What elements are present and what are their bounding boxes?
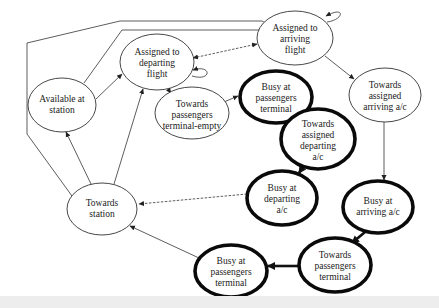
edge-busy-pt-bottom-to-towards-station (130, 226, 199, 258)
node-assigned-to-departing-flight: Assigned to departing flight (120, 34, 194, 90)
node-label: a/c (312, 152, 323, 162)
node-label: passengers (210, 267, 251, 277)
node-label: assigned (369, 91, 402, 101)
node-label: Towards (302, 119, 335, 129)
node-label: terminal (260, 104, 292, 114)
node-label: Assigned to (272, 23, 317, 33)
edge-busy-dep-ac-to-towards-station (139, 194, 247, 204)
page-bottom-band (0, 296, 439, 308)
node-busy-at-passengers-terminal-bottom: Busy at passengers terminal (195, 245, 267, 297)
node-label: departing (139, 58, 175, 68)
node-label: arriving a/c (363, 102, 407, 112)
edge-towards-station-to-available (66, 132, 91, 184)
edge-self-loop-assigned-arriving (326, 12, 340, 22)
node-busy-at-arriving-ac: Busy at arriving a/c (343, 181, 413, 233)
node-label: terminal (319, 272, 351, 282)
node-label: departing (264, 194, 300, 204)
node-label: departing (300, 141, 336, 151)
node-towards-station: Towards station (67, 183, 137, 235)
node-label: assigned (302, 130, 335, 140)
state-diagram: Available at station Assigned to departi… (0, 0, 439, 308)
node-label: terminal (215, 278, 247, 288)
node-label: a/c (276, 205, 287, 215)
edge-self-loop-assigned-departing (192, 69, 207, 77)
node-label: passengers (255, 93, 296, 103)
node-label: station (49, 105, 75, 115)
node-label: arriving a/c (356, 207, 400, 217)
edge-towards-station-to-assigned-departing (114, 89, 143, 184)
node-label: Towards (319, 250, 352, 260)
node-label: Available at (39, 94, 85, 104)
node-assigned-to-arriving-flight: Assigned to arriving flight (257, 11, 333, 65)
edge-assigned-arriving-to-towards-arr-ac (325, 56, 354, 79)
node-towards-assigned-arriving-ac: Towards assigned arriving a/c (349, 68, 421, 122)
node-label: flight (147, 69, 168, 79)
node-towards-passengers-terminal-empty: Towards passengers terminal-empty (155, 87, 229, 139)
node-label: station (89, 209, 115, 219)
nodes: Available at station Assigned to departi… (28, 11, 421, 297)
node-towards-assigned-departing-ac: Towards assigned departing a/c (281, 109, 355, 169)
node-label: flight (285, 45, 306, 55)
node-label: Towards (176, 99, 209, 109)
node-label: terminal-empty (163, 121, 222, 131)
node-label: Busy at (217, 256, 246, 266)
node-busy-at-departing-ac: Busy at departing a/c (247, 171, 317, 225)
edge-available-to-assigned-departing (96, 74, 122, 99)
node-label: Busy at (364, 196, 393, 206)
node-available-at-station: Available at station (28, 78, 96, 132)
node-towards-passengers-terminal: Towards passengers terminal (299, 238, 371, 292)
edge-assigned-departing-assigned-arriving (193, 44, 257, 58)
node-label: Towards (369, 80, 402, 90)
node-label: passengers (171, 110, 212, 120)
node-label: passengers (314, 261, 355, 271)
node-label: Assigned to (134, 47, 179, 57)
node-label: Busy at (262, 82, 291, 92)
node-label: Towards (86, 198, 119, 208)
edge-tpt-empty-to-busy-pt (224, 96, 238, 102)
node-label: arriving (280, 34, 310, 44)
node-label: Busy at (268, 183, 297, 193)
